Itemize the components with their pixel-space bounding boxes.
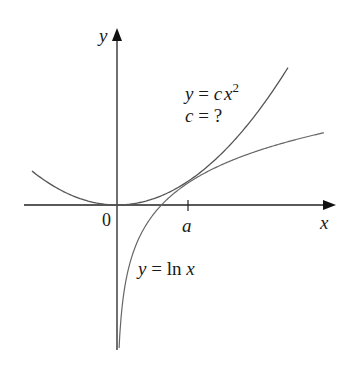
parabola-equation: y = cx2 [183,80,239,104]
x-axis-label: x [319,212,329,233]
diagram-canvas: y x 0 a y = cx2 c = ? y = ln x [0,0,358,367]
ln-curve [119,133,324,348]
y-axis-label: y [97,25,108,46]
parabola-constant-note: c = ? [185,105,222,126]
x-axis-arrow-icon [323,200,336,210]
tick-label-a: a [182,215,192,236]
ln-equation: y = ln x [136,258,195,279]
parabola-curve [32,68,288,205]
origin-label: 0 [102,210,111,230]
y-axis-arrow-icon [112,28,122,41]
